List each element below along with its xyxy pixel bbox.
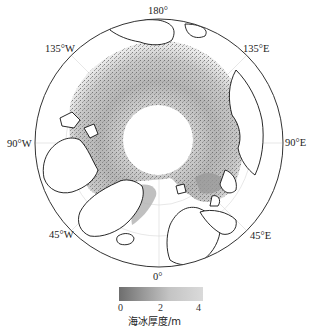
colorbar-label: 海冰厚度/m	[0, 313, 309, 328]
lon-label-90e: 90°E	[285, 137, 306, 149]
colorbar-tick-4: 4	[196, 302, 201, 313]
lon-label-0: 0°	[153, 271, 162, 283]
alaska-chukotka	[110, 20, 174, 45]
lon-label-180: 180°	[148, 5, 168, 17]
lon-label-45w: 45°W	[49, 229, 74, 241]
iceland	[117, 234, 134, 245]
svalbard	[176, 184, 186, 194]
colorbar	[119, 287, 203, 301]
polar-map: 180° 135°W 135°E 90°W 90°E 45°W 45°E 0°	[0, 0, 309, 280]
greenland	[78, 180, 143, 236]
colorbar-tick-2: 2	[158, 302, 163, 313]
lon-label-45e: 45°E	[250, 230, 271, 242]
novaya-zemlya	[210, 196, 220, 206]
pole-hole	[123, 105, 193, 175]
lon-label-135w: 135°W	[45, 43, 75, 55]
lon-label-135e: 135°E	[243, 43, 269, 55]
lon-label-90w: 90°W	[7, 138, 32, 150]
colorbar-tick-0: 0	[118, 302, 123, 313]
